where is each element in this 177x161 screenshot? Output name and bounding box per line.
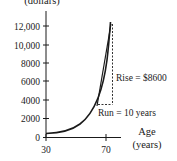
svg-text:30: 30 <box>41 145 51 155</box>
tangent-line <box>97 24 111 106</box>
svg-text:10,000: 10,000 <box>14 41 40 51</box>
x-axis-title-line1: Age <box>138 126 156 137</box>
svg-text:8000: 8000 <box>21 59 40 69</box>
x-tick-labels: 30 70 <box>41 145 111 155</box>
exponential-growth-chart: (dollars) 0 2000 4000 6000 8000 10,000 1… <box>0 0 177 161</box>
svg-text:2000: 2000 <box>21 114 40 124</box>
svg-text:4000: 4000 <box>21 96 40 106</box>
run-label: Run = 10 years <box>98 108 156 118</box>
svg-text:70: 70 <box>101 145 111 155</box>
svg-text:12,000: 12,000 <box>14 22 40 32</box>
x-axis-title-line2: (years) <box>132 139 162 151</box>
y-axis-title: (dollars) <box>24 0 60 7</box>
y-tick-labels: 0 2000 4000 6000 8000 10,000 12,000 <box>14 22 40 144</box>
rise-label: Rise = $8600 <box>116 73 167 83</box>
svg-text:0: 0 <box>35 133 40 143</box>
svg-text:6000: 6000 <box>21 77 40 87</box>
